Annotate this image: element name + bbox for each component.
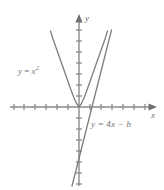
x-axis-label: x <box>151 111 155 120</box>
line-equation-label: y = 4x − b <box>91 120 131 129</box>
coordinate-graph-figure <box>0 0 164 190</box>
parabola-label-lhs: y <box>18 66 22 76</box>
parabola-label-exponent: 2 <box>36 64 39 71</box>
parabola-equation-label: y=x2 <box>18 67 39 76</box>
y-axis-label: y <box>85 14 89 23</box>
parabola-label-equals: = <box>24 66 29 76</box>
